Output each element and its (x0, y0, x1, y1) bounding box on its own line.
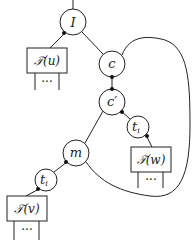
label-Tw: 𝒯(w) (137, 153, 166, 167)
junction-dot-m (64, 160, 68, 164)
label-Tv: 𝒯(v) (14, 202, 39, 216)
junction-dot-c (110, 75, 114, 79)
edge-I-Tu (50, 33, 65, 48)
junction-dot-I (62, 31, 66, 35)
dots-Tu: ··· (41, 75, 52, 89)
label-Tu: 𝒯(u) (34, 54, 60, 68)
dots-Tv: ··· (21, 223, 32, 237)
tree-diagram: I c c′ m ti ti 𝒯(u) 𝒯(w) 𝒯(v) ··· ··· ··… (0, 0, 192, 240)
junction-dot-tright (145, 134, 149, 138)
label-I: I (69, 15, 76, 30)
label-c: c (108, 56, 116, 71)
dots-Tw: ··· (145, 173, 156, 187)
label-c-prime: c′ (107, 94, 117, 109)
junction-dot-cprime-top (110, 87, 114, 91)
edge-I-c (82, 32, 103, 54)
junction-dot-tleft (36, 187, 40, 191)
label-m: m (70, 145, 82, 160)
junction-dot-cprime-right (120, 110, 124, 114)
edge-cprime-m (85, 111, 103, 143)
